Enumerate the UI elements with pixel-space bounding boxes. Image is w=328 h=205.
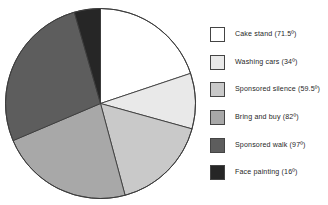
legend-item-sponsored-silence: Sponsored silence (59.5º) — [210, 76, 328, 104]
pie-chart-plot-area — [4, 7, 197, 200]
pie-chart-svg — [4, 7, 197, 200]
legend-item-label: Sponsored walk (97º) — [235, 141, 306, 150]
legend-item-label: Sponsored silence (59.5º) — [235, 85, 320, 94]
legend-item-bring-and-buy: Bring and buy (82º) — [210, 104, 328, 132]
legend-swatch-icon — [210, 138, 225, 153]
legend-swatch-icon — [210, 82, 225, 97]
legend-swatch-icon — [210, 165, 225, 180]
pie-slice-group — [6, 9, 196, 199]
chart-legend: Cake stand (71.5º) Washing cars (34º) Sp… — [210, 21, 328, 193]
legend-swatch-icon — [210, 110, 225, 125]
legend-item-label: Washing cars (34º) — [235, 58, 297, 67]
legend-item-sponsored-walk: Sponsored walk (97º) — [210, 131, 328, 159]
legend-swatch-icon — [210, 27, 225, 42]
pie-chart-figure: Cake stand (71.5º) Washing cars (34º) Sp… — [0, 0, 328, 205]
legend-item-label: Bring and buy (82º) — [235, 113, 299, 122]
legend-item-label: Cake stand (71.5º) — [235, 30, 297, 39]
legend-item-face-painting: Face painting (16º) — [210, 159, 328, 187]
legend-item-label: Face painting (16º) — [235, 168, 297, 177]
legend-swatch-icon — [210, 55, 225, 70]
legend-item-cake-stand: Cake stand (71.5º) — [210, 21, 328, 49]
legend-item-washing-cars: Washing cars (34º) — [210, 49, 328, 77]
